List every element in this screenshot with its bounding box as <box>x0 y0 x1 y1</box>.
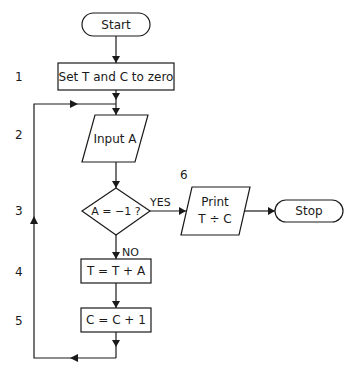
stop-label: Stop <box>295 204 322 218</box>
count-label: C = C + 1 <box>86 313 146 327</box>
start-terminal: Start <box>82 13 150 36</box>
step-number-5: 5 <box>15 314 23 328</box>
print-label-line2: T ÷ C <box>197 212 231 226</box>
arrow-up-icon <box>30 216 38 224</box>
arrow-down-icon <box>112 181 120 188</box>
step-number-1: 1 <box>15 70 23 84</box>
print-label-line1: Print <box>201 195 229 209</box>
arrow-right-icon <box>70 100 78 108</box>
arrow-left-icon <box>70 354 78 362</box>
input-label: Input A <box>93 132 137 146</box>
arrow-down-icon <box>112 252 120 259</box>
sum-process-box: T = T + A <box>81 259 151 283</box>
arrow-down-icon <box>112 56 120 63</box>
no-label: NO <box>122 246 139 259</box>
arrow-down-icon <box>112 340 120 347</box>
arrow-right-icon <box>179 207 186 215</box>
arrow-down-icon <box>112 108 120 115</box>
count-process-box: C = C + 1 <box>81 308 151 332</box>
arrow-down-icon <box>112 301 120 308</box>
step-number-2: 2 <box>15 128 23 142</box>
print-io-box: Print T ÷ C <box>181 187 250 235</box>
flowchart-diagram: 1 2 3 4 5 6 Start Set T and C to zero In… <box>0 0 358 375</box>
step-number-4: 4 <box>15 265 23 279</box>
step-number-6: 6 <box>180 168 188 182</box>
decision-label: A = −1 ? <box>91 205 140 218</box>
input-io-box: Input A <box>82 115 148 162</box>
yes-label: YES <box>149 196 171 209</box>
init-process-box: Set T and C to zero <box>58 63 174 90</box>
start-label: Start <box>101 18 131 32</box>
init-label: Set T and C to zero <box>59 70 174 84</box>
decision-diamond: A = −1 ? <box>82 188 150 235</box>
arrow-right-icon <box>268 207 275 215</box>
arrow-down-icon <box>112 93 120 100</box>
step-number-3: 3 <box>15 204 23 218</box>
stop-terminal: Stop <box>275 200 343 222</box>
sum-label: T = T + A <box>86 264 146 278</box>
